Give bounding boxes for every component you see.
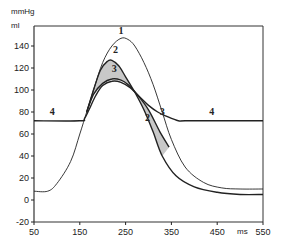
curve-label-4: 4 xyxy=(50,106,55,117)
curve-label-2: 2 xyxy=(113,44,118,55)
curve-labels: 1234324 xyxy=(50,25,214,123)
y-tick-label: 60 xyxy=(19,129,29,139)
curve-label-3: 3 xyxy=(160,106,165,117)
y-tick-label: -20 xyxy=(16,217,29,227)
x-tick-label: 250 xyxy=(118,227,133,237)
x-tick-label: 450 xyxy=(210,227,225,237)
y-axis: -20020406080100120140 xyxy=(14,41,34,227)
curve-label-2: 2 xyxy=(145,112,150,123)
y-tick-label: 0 xyxy=(24,195,29,205)
y-tick-label: 120 xyxy=(14,63,29,73)
y-unit-ml: ml xyxy=(11,21,20,30)
x-tick-label: 550 xyxy=(255,227,270,237)
x-axis: 50150250350450550 xyxy=(29,222,271,237)
curve-label-1: 1 xyxy=(119,25,124,36)
curve-label-4: 4 xyxy=(209,106,214,117)
x-tick-label: 350 xyxy=(164,227,179,237)
y-tick-label: 40 xyxy=(19,151,29,161)
curve-label-3: 3 xyxy=(112,63,117,74)
x-tick-label: 150 xyxy=(72,227,87,237)
y-tick-label: 140 xyxy=(14,41,29,51)
curve-2 xyxy=(87,60,263,195)
y-tick-label: 20 xyxy=(19,173,29,183)
y-tick-label: 80 xyxy=(19,107,29,117)
plot-frame xyxy=(34,26,263,222)
x-tick-label: 50 xyxy=(29,227,39,237)
y-unit-mmhg: mmHg xyxy=(11,7,35,16)
x-unit-ms: ms xyxy=(237,227,248,236)
line-chart: -20020406080100120140 50150250350450550 … xyxy=(0,0,283,247)
y-tick-label: 100 xyxy=(14,85,29,95)
